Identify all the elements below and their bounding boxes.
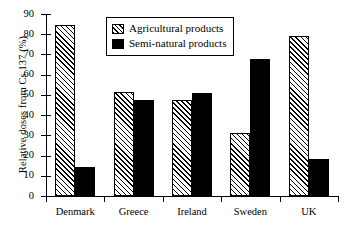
y-tick-label-20: 20 bbox=[24, 148, 35, 161]
bar-ireland-semi-natural bbox=[192, 93, 212, 196]
x-tick-2 bbox=[163, 196, 164, 202]
x-category-label-uk: UK bbox=[301, 206, 316, 217]
x-tick-0 bbox=[46, 196, 47, 202]
y-tick-label-0: 0 bbox=[29, 189, 34, 202]
x-tick-4 bbox=[280, 196, 281, 202]
bar-sweden-agricultural bbox=[230, 133, 250, 196]
y-tick-label-80: 80 bbox=[24, 27, 35, 40]
y-tick-20: 20 bbox=[41, 156, 51, 157]
bar-sweden-semi-natural bbox=[250, 59, 270, 197]
y-tick-label-50: 50 bbox=[24, 87, 35, 100]
bar-ireland-agricultural bbox=[172, 100, 192, 196]
bar-greece-agricultural bbox=[114, 92, 134, 196]
x-category-label-sweden: Sweden bbox=[234, 206, 267, 217]
y-tick-70: 70 bbox=[41, 54, 51, 55]
bar-denmark-agricultural bbox=[55, 25, 75, 196]
y-axis-line bbox=[46, 14, 47, 196]
x-category-label-ireland: Ireland bbox=[177, 206, 207, 217]
y-tick-50: 50 bbox=[41, 95, 51, 96]
x-axis-line bbox=[46, 196, 338, 197]
y-tick-label-70: 70 bbox=[24, 47, 35, 60]
y-tick-label-30: 30 bbox=[24, 128, 35, 141]
x-tick-3 bbox=[221, 196, 222, 202]
bar-denmark-semi-natural bbox=[75, 167, 95, 196]
y-tick-80: 80 bbox=[41, 34, 51, 35]
chart-legend: Agricultural products Semi-natural produ… bbox=[106, 17, 234, 56]
y-tick-40: 40 bbox=[41, 115, 51, 116]
y-tick-label-40: 40 bbox=[24, 108, 35, 121]
x-tick-1 bbox=[104, 196, 105, 202]
bar-uk-agricultural bbox=[289, 36, 309, 196]
legend-label-agricultural: Agricultural products bbox=[129, 22, 223, 35]
legend-item-semi-natural: Semi-natural products bbox=[112, 36, 226, 51]
x-tick-5 bbox=[338, 196, 339, 202]
y-tick-label-60: 60 bbox=[24, 67, 35, 80]
solid-swatch-icon bbox=[112, 39, 124, 49]
bar-chart-figure: Relative doses from Cs 137 (%) 010203040… bbox=[0, 0, 362, 239]
x-category-label-denmark: Denmark bbox=[56, 206, 95, 217]
hatch-swatch-icon bbox=[112, 24, 124, 34]
legend-label-semi-natural: Semi-natural products bbox=[129, 37, 226, 50]
x-category-label-greece: Greece bbox=[119, 206, 149, 217]
y-tick-label-90: 90 bbox=[24, 7, 35, 20]
bar-greece-semi-natural bbox=[134, 100, 154, 196]
bar-uk-semi-natural bbox=[309, 159, 329, 196]
y-tick-60: 60 bbox=[41, 75, 51, 76]
y-tick-10: 10 bbox=[41, 176, 51, 177]
y-tick-30: 30 bbox=[41, 135, 51, 136]
legend-item-agricultural: Agricultural products bbox=[112, 21, 226, 36]
y-tick-90: 90 bbox=[41, 14, 51, 15]
y-tick-label-10: 10 bbox=[24, 168, 35, 181]
